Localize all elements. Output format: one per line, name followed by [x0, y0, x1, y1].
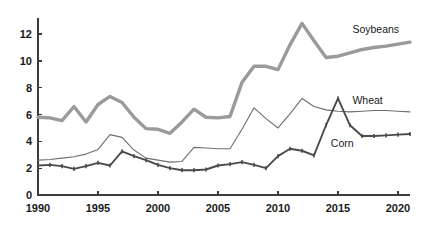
x-axis-tick-label: 2015 [326, 202, 350, 214]
line-chart: 0246810121990199520002005201020152020Soy… [0, 0, 436, 229]
chart-axes [38, 18, 410, 195]
y-axis-tick-label: 6 [26, 109, 32, 121]
chart-canvas: 0246810121990199520002005201020152020Soy… [0, 0, 436, 229]
series-line-soybeans [38, 23, 410, 133]
x-axis-tick-label: 2005 [206, 202, 230, 214]
y-axis-tick-label: 10 [20, 55, 32, 67]
y-axis-tick-label: 4 [26, 135, 33, 147]
series-label-soybeans: Soybeans [352, 23, 399, 35]
series-label-wheat: Wheat [352, 94, 382, 106]
x-axis-tick-label: 2010 [266, 202, 290, 214]
x-axis-tick-label: 2020 [386, 202, 410, 214]
y-axis-tick-label: 8 [26, 82, 32, 94]
series-label-corn: Corn [331, 137, 354, 149]
x-axis-tick-label: 1990 [26, 202, 50, 214]
x-axis-tick-label: 2000 [146, 202, 170, 214]
y-axis-tick-label: 0 [26, 189, 32, 201]
y-axis-tick-label: 12 [20, 28, 32, 40]
x-axis-tick-label: 1995 [86, 202, 110, 214]
y-axis-tick-label: 2 [26, 162, 32, 174]
